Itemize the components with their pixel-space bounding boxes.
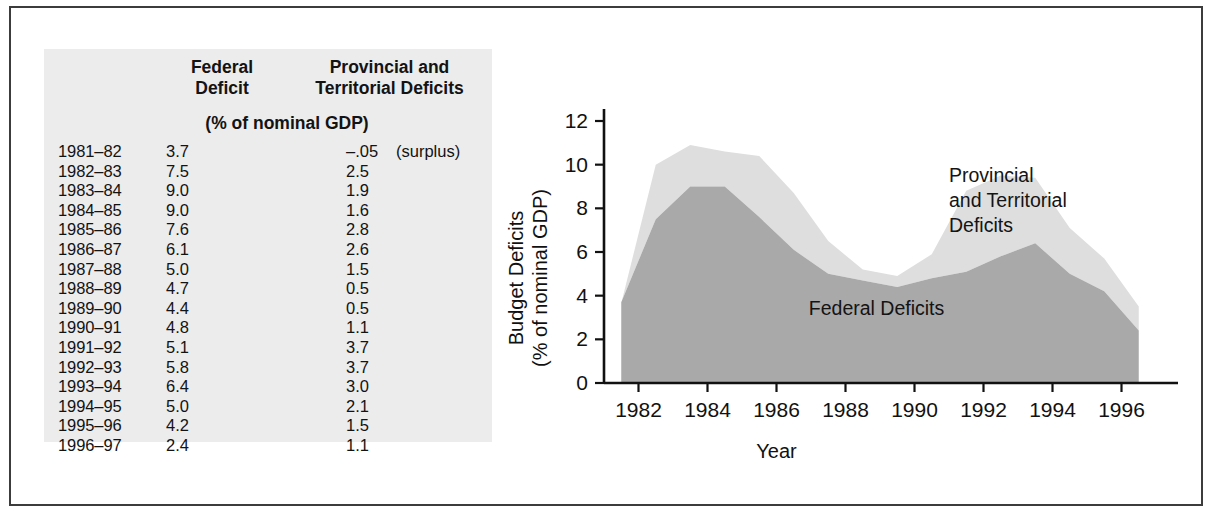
x-tick-label: 1986 <box>753 398 800 421</box>
cell-provincial-deficit: 2.5 <box>346 162 398 181</box>
cell-year: 1982–83 <box>58 162 150 181</box>
cell-federal-deficit: 4.4 <box>166 299 212 318</box>
annotation-federal: Federal Deficits <box>809 297 945 319</box>
table-row: 1992–935.83.7 <box>44 358 492 378</box>
y-tick-label: 6 <box>576 240 588 263</box>
cell-federal-deficit: 3.7 <box>166 142 212 161</box>
cell-federal-deficit: 6.1 <box>166 240 212 259</box>
cell-federal-deficit: 5.1 <box>166 338 212 357</box>
column-header-provincial: Provincial and Territorial Deficits <box>287 57 492 100</box>
x-tick-label: 1990 <box>891 398 938 421</box>
cell-provincial-deficit: 1.1 <box>346 436 398 455</box>
cell-federal-deficit: 7.6 <box>166 220 212 239</box>
cell-year: 1996–97 <box>58 436 150 455</box>
cell-federal-deficit: 2.4 <box>166 436 212 455</box>
column-header-federal-line2: Deficit <box>162 78 282 99</box>
x-tick-label: 1988 <box>822 398 869 421</box>
cell-year: 1984–85 <box>58 201 150 220</box>
x-tick-label: 1982 <box>615 398 662 421</box>
cell-provincial-deficit: 2.8 <box>346 220 398 239</box>
cell-provincial-deficit: 3.0 <box>346 377 398 396</box>
cell-provincial-deficit: 3.7 <box>346 338 398 357</box>
table-row: 1987–885.01.5 <box>44 260 492 280</box>
chart-svg: 024681012 198219841986198819901992199419… <box>501 28 1201 488</box>
cell-provincial-deficit: 1.6 <box>346 201 398 220</box>
data-table-panel: Federal Deficit Provincial and Territori… <box>44 49 492 442</box>
cell-provincial-deficit: –.05 <box>346 142 398 161</box>
column-header-units: (% of nominal GDP) <box>162 113 412 134</box>
cell-provincial-deficit: 0.5 <box>346 299 398 318</box>
cell-year: 1988–89 <box>58 279 150 298</box>
cell-federal-deficit: 4.2 <box>166 416 212 435</box>
cell-year: 1987–88 <box>58 260 150 279</box>
cell-federal-deficit: 5.0 <box>166 260 212 279</box>
table-row: 1995–964.21.5 <box>44 416 492 436</box>
annotation-provincial-line3: Deficits <box>949 214 1013 236</box>
x-axis: 19821984198619881990199219941996 <box>604 383 1178 421</box>
table-row: 1985–867.62.8 <box>44 220 492 240</box>
y-tick-label: 12 <box>565 109 588 132</box>
cell-year: 1991–92 <box>58 338 150 357</box>
column-header-provincial-line1: Provincial and <box>287 57 492 78</box>
y-axis-title: Budget Deficits (% of nominal GDP) <box>505 189 551 367</box>
column-header-federal: Federal Deficit <box>162 57 282 100</box>
table-row: 1986–876.12.6 <box>44 240 492 260</box>
cell-federal-deficit: 5.0 <box>166 397 212 416</box>
table-row: 1993–946.43.0 <box>44 377 492 397</box>
table-row: 1988–894.70.5 <box>44 279 492 299</box>
y-axis-title-line2: (% of nominal GDP) <box>529 189 551 367</box>
table-row: 1983–849.01.9 <box>44 181 492 201</box>
column-header-provincial-line2: Territorial Deficits <box>287 78 492 99</box>
x-tick-label: 1992 <box>960 398 1007 421</box>
y-tick-label: 2 <box>576 327 588 350</box>
cell-federal-deficit: 9.0 <box>166 201 212 220</box>
cell-provincial-deficit: 2.1 <box>346 397 398 416</box>
figure-frame: Federal Deficit Provincial and Territori… <box>9 6 1203 506</box>
cell-provincial-deficit: 3.7 <box>346 358 398 377</box>
cell-provincial-deficit: 1.5 <box>346 416 398 435</box>
y-tick-label: 8 <box>576 196 588 219</box>
deficit-area-chart: 024681012 198219841986198819901992199419… <box>501 28 1201 488</box>
x-tick-label: 1994 <box>1029 398 1076 421</box>
table-row: 1989–904.40.5 <box>44 299 492 319</box>
table-row: 1984–859.01.6 <box>44 201 492 221</box>
annotation-provincial-line1: Provincial <box>949 164 1034 186</box>
cell-federal-deficit: 4.8 <box>166 318 212 337</box>
cell-year: 1993–94 <box>58 377 150 396</box>
y-tick-label: 4 <box>576 284 588 307</box>
table-body: 1981–823.7–.05(surplus)1982–837.52.51983… <box>44 142 492 456</box>
cell-provincial-deficit: 0.5 <box>346 279 398 298</box>
cell-year: 1992–93 <box>58 358 150 377</box>
table-row: 1981–823.7–.05(surplus) <box>44 142 492 162</box>
x-axis-title: Year <box>756 440 797 462</box>
table-row: 1991–925.13.7 <box>44 338 492 358</box>
cell-year: 1981–82 <box>58 142 150 161</box>
cell-federal-deficit: 9.0 <box>166 181 212 200</box>
cell-year: 1995–96 <box>58 416 150 435</box>
y-tick-label: 0 <box>576 371 588 394</box>
cell-year: 1994–95 <box>58 397 150 416</box>
deficit-table: Federal Deficit Provincial and Territori… <box>44 49 492 442</box>
table-row: 1990–914.81.1 <box>44 318 492 338</box>
x-tick-label: 1996 <box>1098 398 1145 421</box>
cell-year: 1983–84 <box>58 181 150 200</box>
cell-federal-deficit: 6.4 <box>166 377 212 396</box>
cell-provincial-deficit: 1.5 <box>346 260 398 279</box>
annotation-provincial-line2: and Territorial <box>949 189 1067 211</box>
cell-provincial-note: (surplus) <box>396 142 460 161</box>
table-header-row: Federal Deficit Provincial and Territori… <box>44 57 492 115</box>
cell-provincial-deficit: 1.1 <box>346 318 398 337</box>
cell-year: 1989–90 <box>58 299 150 318</box>
cell-provincial-deficit: 2.6 <box>346 240 398 259</box>
table-row: 1982–837.52.5 <box>44 162 492 182</box>
table-row: 1994–955.02.1 <box>44 397 492 417</box>
column-header-federal-line1: Federal <box>162 57 282 78</box>
y-tick-label: 10 <box>565 153 588 176</box>
y-axis-title-line1: Budget Deficits <box>505 211 527 346</box>
table-row: 1996–972.41.1 <box>44 436 492 456</box>
cell-federal-deficit: 5.8 <box>166 358 212 377</box>
cell-provincial-deficit: 1.9 <box>346 181 398 200</box>
x-tick-label: 1984 <box>684 398 731 421</box>
cell-year: 1985–86 <box>58 220 150 239</box>
y-axis: 024681012 <box>565 109 604 394</box>
